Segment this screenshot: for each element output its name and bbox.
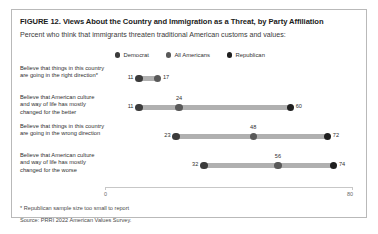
data-label: 23 (164, 132, 170, 138)
legend-item-democrat[interactable]: Democrat (115, 52, 149, 58)
data-label: 24 (176, 95, 182, 101)
row-track: 1117 (105, 65, 352, 92)
row-label: Believe that American culture and way of… (20, 94, 105, 116)
row-track: 325674 (105, 152, 352, 179)
figure-title: FIGURE 12. Views About the Country and I… (20, 17, 360, 27)
chart-row: Believe that things in this country are … (20, 65, 360, 92)
data-point-democrat[interactable] (172, 133, 179, 140)
axis-tick-label: 80 (347, 191, 353, 197)
axis-tick (105, 187, 106, 190)
data-label: 17 (163, 74, 169, 80)
data-label: 72 (333, 132, 339, 138)
chart-row: Believe that American culture and way of… (20, 94, 360, 121)
row-label: Believe that things in this country are … (20, 123, 105, 138)
data-label: 74 (339, 161, 345, 167)
plot-area: Believe that things in this country are … (20, 65, 360, 183)
figure-subtitle: Percent who think that immigrants threat… (20, 30, 360, 40)
chart-row: Believe that American culture and way of… (20, 152, 360, 179)
data-point-democrat[interactable] (200, 162, 207, 169)
figure-inner: FIGURE 12. Views About the Country and I… (20, 15, 360, 214)
data-label: 60 (296, 103, 302, 109)
data-point-republican[interactable] (287, 104, 294, 111)
data-point-republican[interactable] (324, 133, 331, 140)
x-axis: 080 (105, 187, 352, 199)
data-point-all-americans[interactable] (250, 133, 257, 140)
axis-tick (352, 187, 353, 190)
legend-label: Democrat (123, 52, 149, 58)
connector-bar (204, 163, 334, 167)
data-point-democrat[interactable] (135, 75, 142, 82)
data-label: 11 (128, 103, 134, 109)
legend-dot-icon (227, 52, 232, 57)
data-label: 48 (250, 124, 256, 130)
data-point-all-americans[interactable] (274, 162, 281, 169)
legend-label: Republican (235, 52, 264, 58)
chart-row: Believe that things in this country are … (20, 123, 360, 150)
data-point-all-americans[interactable] (175, 104, 182, 111)
connector-bar (139, 105, 290, 109)
row-label: Believe that things in this country are … (20, 65, 105, 80)
data-label: 32 (192, 161, 198, 167)
row-label: Believe that American culture and way of… (20, 152, 105, 174)
axis-line (105, 187, 352, 188)
source-note: Source: PRRI 2022 American Values Survey… (20, 217, 131, 223)
legend-dot-icon (115, 52, 120, 57)
legend-item-all-americans[interactable]: All Americans (166, 52, 210, 58)
legend-item-republican[interactable]: Republican (227, 52, 265, 58)
figure-card: FIGURE 12. Views About the Country and I… (11, 9, 367, 218)
footnote: * Republican sample size too small to re… (20, 205, 129, 211)
data-point-republican[interactable] (330, 162, 337, 169)
row-track: 234872 (105, 123, 352, 150)
row-track: 112460 (105, 94, 352, 121)
data-label: 56 (275, 153, 281, 159)
legend-label: All Americans (174, 52, 210, 58)
chart-legend: DemocratAll AmericansRepublican (20, 49, 360, 61)
data-point-democrat[interactable] (135, 104, 142, 111)
data-point-all-americans[interactable] (154, 75, 161, 82)
legend-dot-icon (166, 52, 171, 57)
axis-tick-label: 0 (104, 191, 107, 197)
data-label: 11 (128, 74, 134, 80)
